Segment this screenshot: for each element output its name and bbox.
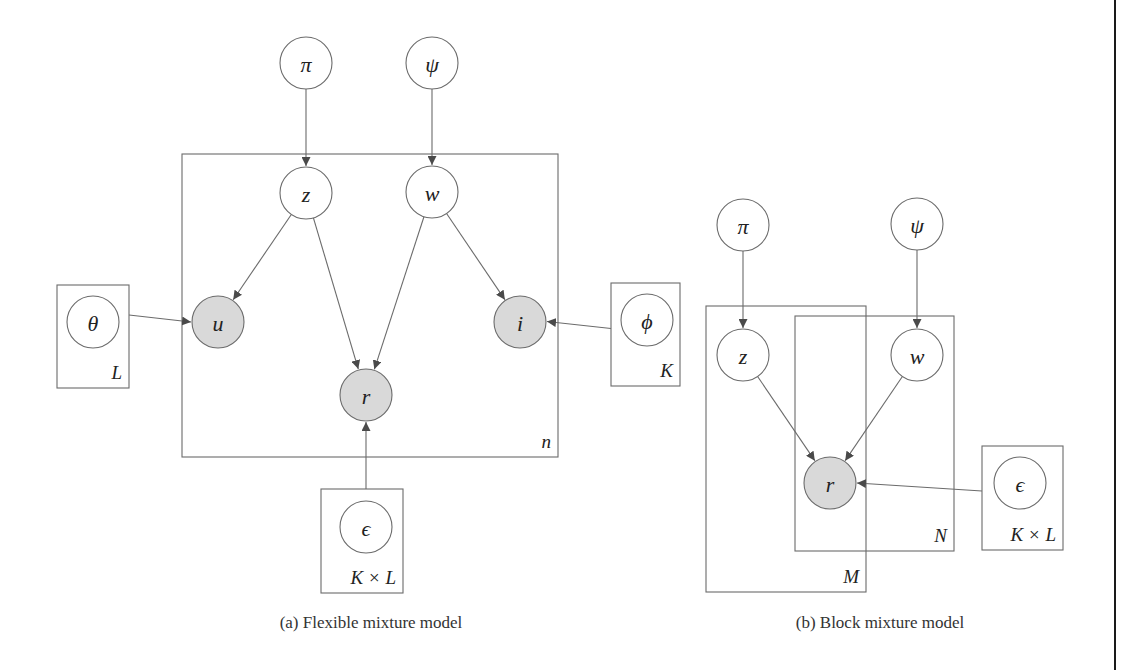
- edge-b-w-to-r: [845, 377, 902, 461]
- plate-label: K × L: [349, 567, 396, 588]
- node-label: i: [517, 311, 523, 336]
- node-a-w: w: [406, 166, 458, 218]
- node-label: w: [910, 344, 925, 369]
- node-a-theta: θ: [67, 296, 119, 348]
- edge-a-w-to-i: [447, 214, 505, 300]
- node-label: ϵ: [362, 516, 372, 541]
- plate-label: K × L: [1009, 524, 1056, 545]
- node-b-pi: π: [717, 199, 769, 251]
- node-label: z: [738, 344, 748, 369]
- node-b-epsilon: ϵ: [994, 457, 1046, 509]
- edge-a-phi-to-i: [547, 322, 611, 329]
- node-b-w: w: [891, 329, 943, 381]
- node-a-i: i: [494, 296, 546, 348]
- node-label: w: [425, 181, 440, 206]
- node-label: u: [213, 311, 224, 336]
- edges-layer: [129, 89, 982, 491]
- node-label: r: [362, 384, 371, 409]
- edge-a-z-to-u: [233, 214, 291, 299]
- node-label: r: [826, 472, 835, 497]
- nodes-layer: πψzwuirθϕϵπψzwrϵ: [67, 37, 1046, 553]
- node-b-z: z: [717, 329, 769, 381]
- caption-block-mixture-model: (b) Block mixture model: [796, 613, 965, 632]
- node-label: π: [737, 214, 749, 239]
- node-label: ϕ: [641, 309, 652, 334]
- graphical-model-figure: nLKK × LMNK × L πψzwuirθϕϵπψzwrϵ (a) Fle…: [0, 0, 1127, 670]
- node-a-psi: ψ: [406, 37, 458, 89]
- node-b-r: r: [804, 457, 856, 509]
- node-label: θ: [88, 311, 99, 336]
- plate-label: K: [659, 360, 674, 381]
- edge-a-w-to-r: [374, 217, 424, 370]
- captions-layer: (a) Flexible mixture model (b) Block mix…: [280, 613, 965, 632]
- edge-b-epsilon-to-r: [857, 483, 982, 491]
- plate-label: N: [933, 525, 948, 546]
- plate-label: n: [542, 431, 552, 452]
- plate-label: L: [110, 362, 122, 383]
- node-a-z: z: [280, 167, 332, 219]
- node-a-u: u: [192, 296, 244, 348]
- node-a-phi: ϕ: [621, 294, 673, 346]
- caption-flexible-mixture-model: (a) Flexible mixture model: [280, 613, 463, 632]
- node-a-epsilon: ϵ: [340, 501, 392, 553]
- node-a-pi: π: [280, 37, 332, 89]
- edge-a-z-to-r: [313, 218, 358, 369]
- edge-b-z-to-r: [758, 377, 815, 461]
- node-label: ϵ: [1016, 472, 1026, 497]
- node-label: z: [301, 182, 311, 207]
- node-b-psi: ψ: [891, 198, 943, 250]
- node-label: ψ: [425, 52, 439, 77]
- node-label: π: [300, 52, 312, 77]
- plate-label: M: [842, 566, 860, 587]
- node-label: ψ: [910, 213, 924, 238]
- node-a-r: r: [340, 369, 392, 421]
